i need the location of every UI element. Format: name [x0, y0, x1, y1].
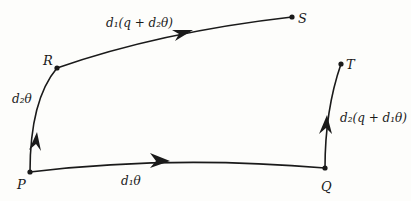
- edge-p-q: [30, 162, 325, 172]
- edge-p-r: [30, 68, 57, 172]
- point-q-dot: [322, 165, 327, 170]
- parallel-transport-diagram: P Q R S T d₁θ d₂θ d₁(q + d₂θ) d₂(q + d₁θ…: [0, 0, 411, 201]
- edge-label-p-r: d₂θ: [12, 93, 32, 105]
- point-p-dot: [27, 169, 32, 174]
- edge-label-r-s: d₁(q + d₂θ): [106, 17, 173, 29]
- point-t-dot: [338, 61, 343, 66]
- arrowhead-p-q-icon: [150, 153, 170, 168]
- point-label-q: Q: [321, 180, 332, 193]
- edge-r-s: [57, 17, 292, 68]
- edge-label-p-q: d₁θ: [121, 175, 141, 187]
- point-label-p: P: [17, 178, 26, 191]
- point-label-r: R: [43, 54, 53, 67]
- edge-q-t: [325, 64, 341, 168]
- arrowhead-q-t-icon: [319, 115, 332, 134]
- edge-label-q-t: d₂(q + d₁θ): [340, 112, 407, 124]
- point-label-s: S: [298, 12, 307, 25]
- point-s-dot: [289, 14, 294, 19]
- diagram-svg: [0, 0, 411, 201]
- point-r-dot: [54, 65, 59, 70]
- point-label-t: T: [346, 58, 355, 71]
